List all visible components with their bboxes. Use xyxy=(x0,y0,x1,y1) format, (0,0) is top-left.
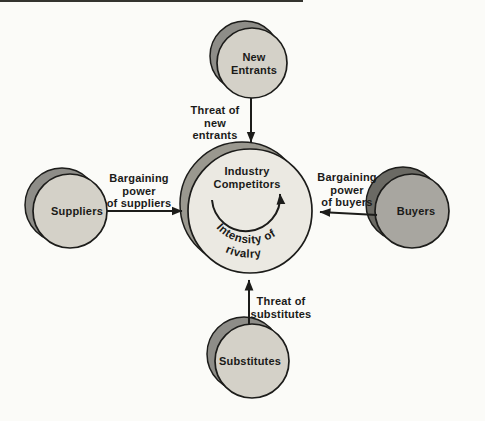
force-bargaining-suppliers-label: Bargaining power of suppliers xyxy=(107,172,172,210)
force-bargaining-buyers-label: Bargaining power of buyers xyxy=(317,171,376,209)
node-industry-competitors-label: Industry Competitors xyxy=(214,165,281,190)
force-threat-new-entrants-label: Threat of new entrants xyxy=(191,104,240,142)
five-forces-diagram: Intensity of rivalry New Entrants Suppli… xyxy=(0,0,485,421)
node-substitutes-label: Substitutes xyxy=(219,355,281,368)
node-new-entrants-label: New Entrants xyxy=(231,51,277,76)
node-buyers-label: Buyers xyxy=(397,205,436,218)
node-suppliers-label: Suppliers xyxy=(51,205,103,218)
force-threat-substitutes-label: Threat of substitutes xyxy=(251,295,312,320)
